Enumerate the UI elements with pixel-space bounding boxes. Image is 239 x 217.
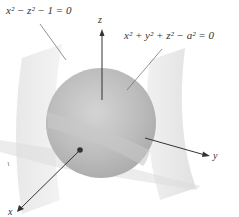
diagram: x² − z² − 1 = 0 x² + y² + z² − a² = 0 z … (0, 0, 239, 217)
origin-point (77, 147, 83, 153)
y-axis-arrowhead (202, 152, 210, 158)
sphere-equation-label: x² + y² + z² − a² = 0 (124, 30, 214, 41)
sheet-mark (8, 162, 9, 166)
x-axis-label: x (8, 207, 12, 217)
z-axis-label: z (98, 15, 102, 25)
z-axis-arrowhead (100, 29, 105, 36)
y-axis-label: y (213, 151, 217, 161)
cylinder-equation-label: x² − z² − 1 = 0 (6, 5, 72, 16)
